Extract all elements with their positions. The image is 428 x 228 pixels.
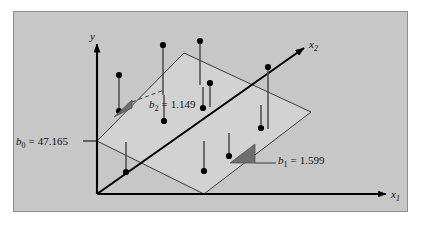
slope-b1-subscript: 1 — [284, 160, 288, 169]
x2-axis-label-subscript: 2 — [314, 44, 318, 53]
slope-b1-value: 1.599 — [300, 154, 325, 166]
slope-b2-value: 1.149 — [171, 98, 196, 110]
intercept-equals: = — [29, 135, 35, 147]
data-point — [160, 42, 166, 48]
figure-frame: y x2 x1 b0=47.165 b2=1.149 b1=1.599 — [13, 11, 408, 212]
figure-root: y x2 x1 b0=47.165 b2=1.149 b1=1.599 — [0, 0, 428, 228]
data-point — [123, 169, 129, 175]
x1-axis-label: x1 — [390, 188, 400, 203]
data-point — [258, 125, 264, 131]
slope-b2-equals: = — [162, 98, 168, 110]
data-point — [197, 38, 203, 44]
intercept-value: 47.165 — [38, 135, 69, 147]
x2-axis-label: x2 — [308, 38, 318, 53]
intercept-subscript: 0 — [22, 141, 26, 150]
regression-plane-figure: y x2 x1 b0=47.165 b2=1.149 b1=1.599 — [14, 12, 407, 211]
slope-b1-equals: = — [291, 154, 297, 166]
slope-b1-label: b1=1.599 — [278, 154, 325, 169]
data-point — [207, 80, 213, 86]
data-point — [201, 168, 207, 174]
data-point — [161, 118, 167, 124]
y-axis-label: y — [89, 30, 95, 42]
data-point — [265, 64, 271, 70]
data-point — [226, 153, 232, 159]
slope-b2-subscript: 2 — [155, 104, 159, 113]
data-point — [200, 105, 206, 111]
x1-axis-label-subscript: 1 — [396, 194, 400, 203]
data-point — [116, 72, 122, 78]
intercept-label: b0=47.165 — [16, 135, 68, 150]
